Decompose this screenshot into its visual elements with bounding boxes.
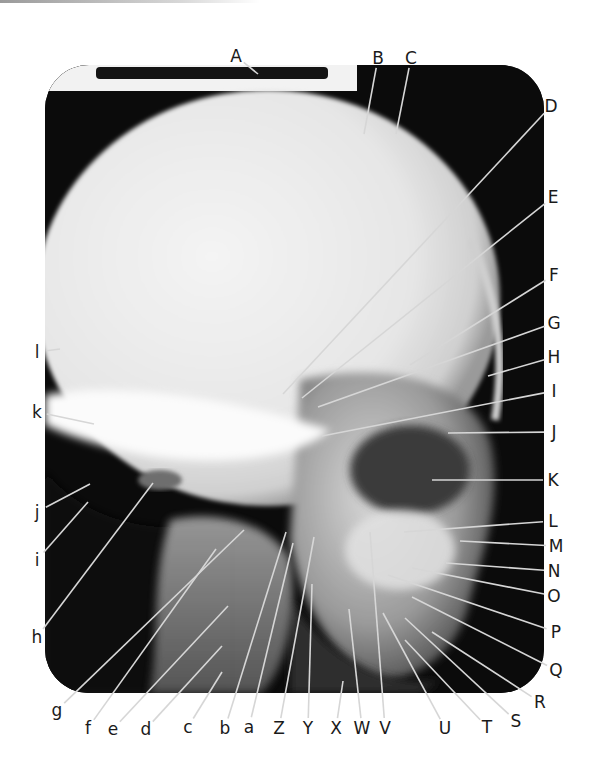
anatomy-label-O: O [547,588,560,605]
skull-xray-image [45,65,544,693]
anatomy-label-g: g [52,702,63,719]
anatomy-label-N: N [548,563,561,580]
anatomy-label-U: U [439,720,451,737]
anatomy-label-D: D [544,98,557,115]
anatomy-label-L: L [548,513,557,530]
anatomy-label-d: d [141,721,152,738]
anatomy-label-V: V [379,720,391,737]
anatomy-label-Z: Z [273,720,285,737]
anatomy-label-H: H [548,349,561,366]
anatomy-label-Q: Q [549,662,562,679]
anatomy-label-X: X [330,720,342,737]
anatomy-label-i: i [35,552,40,569]
anatomy-label-M: M [549,538,564,555]
anatomy-label-c: c [183,719,192,736]
anatomy-label-a: a [244,719,254,736]
anatomy-label-e: e [108,721,118,738]
anatomy-label-h: h [32,629,43,646]
anatomy-label-W: W [354,720,371,737]
anatomy-label-E: E [548,189,559,206]
anatomy-label-Y: Y [303,720,313,737]
anatomy-label-K: K [547,472,558,489]
anatomy-label-l: l [35,344,40,361]
anatomy-label-B: B [372,50,384,67]
anatomy-label-j: j [35,504,40,521]
anatomy-label-P: P [551,624,561,641]
anatomy-label-f: f [85,720,91,737]
anatomy-label-T: T [482,719,492,736]
anatomy-label-F: F [549,267,559,284]
anatomy-label-b: b [220,720,231,737]
anatomy-label-C: C [405,50,417,67]
anatomy-label-S: S [511,713,522,730]
radiograph-film [45,65,544,693]
anatomy-label-G: G [547,315,560,332]
anatomy-label-J: J [551,424,556,441]
scan-edge-artifact [0,0,260,3]
anatomy-label-A: A [230,48,242,65]
anatomy-label-R: R [534,694,546,711]
anatomy-label-k: k [32,404,42,421]
anatomy-label-I: I [551,383,556,400]
